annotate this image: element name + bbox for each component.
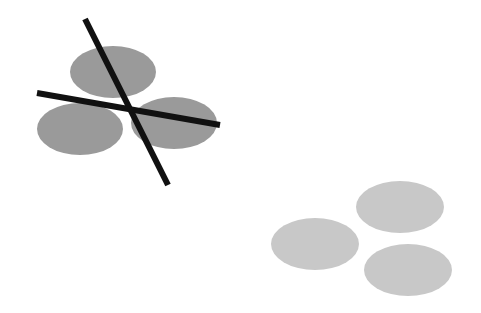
light-ellipse-3	[364, 244, 452, 296]
light-ellipse-2	[271, 218, 359, 270]
dark-ellipse-2	[37, 103, 123, 155]
crossed-out-ellipse-group	[37, 19, 220, 185]
plain-ellipse-group	[271, 181, 452, 296]
light-ellipse-1	[356, 181, 444, 233]
figure-canvas	[0, 0, 481, 313]
figure-svg	[0, 0, 481, 313]
